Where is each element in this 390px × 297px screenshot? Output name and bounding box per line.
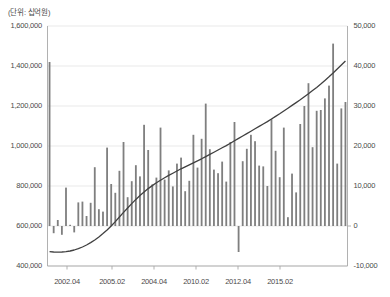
right-axis-tick: -10,000 [354,261,390,270]
x-axis-tick: 2012.04 [216,277,260,286]
left-axis-tick: 1,000,000 [0,141,42,150]
x-axis-tick: 2010.02 [174,277,218,286]
x-axis-tick: 2015.02 [258,277,302,286]
chart-container: (단위: 십억원) 1,600,0001,400,0001,200,0001,0… [0,0,390,297]
x-tick-marks [67,266,280,270]
left-axis-tick: 1,400,000 [0,61,42,70]
x-axis-tick: 2005.02 [90,277,134,286]
right-axis-tick: 0 [354,221,390,230]
right-axis-tick: 20,000 [354,141,390,150]
right-axis-tick: 50,000 [354,21,390,30]
x-axis-tick: 2002.04 [45,277,89,286]
gridlines [48,26,348,266]
left-axis-tick: 1,200,000 [0,101,42,110]
left-axis-tick: 600,000 [0,221,42,230]
right-axis-tick: 40,000 [354,61,390,70]
right-axis-tick: 30,000 [354,101,390,110]
x-axis-tick: 2004.04 [132,277,176,286]
bar-series [49,44,347,252]
left-axis-tick: 1,600,000 [0,21,42,30]
right-axis-tick: 10,000 [354,181,390,190]
chart-plot-area [0,0,390,297]
left-axis-tick: 800,000 [0,181,42,190]
left-axis-tick: 400,000 [0,261,42,270]
